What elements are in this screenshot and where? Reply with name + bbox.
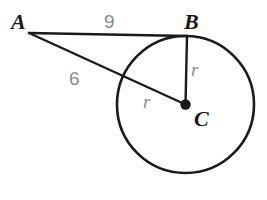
vertex-label-c: C bbox=[194, 106, 209, 131]
vertex-label-a: A bbox=[9, 9, 26, 34]
geometry-canvas: A B C 9 6 r r bbox=[0, 0, 267, 200]
segment-ab bbox=[29, 33, 187, 36]
length-label-ac: 6 bbox=[69, 68, 80, 89]
segment-bc-radius bbox=[186, 36, 188, 105]
center-point-dot bbox=[180, 99, 190, 109]
geometry-figure: A B C 9 6 r r bbox=[0, 0, 267, 200]
radius-label-bc: r bbox=[191, 59, 199, 80]
radius-label-ac: r bbox=[143, 91, 151, 112]
length-label-ab: 9 bbox=[104, 11, 115, 32]
segment-ac bbox=[29, 33, 186, 105]
vertex-label-b: B bbox=[183, 9, 199, 34]
